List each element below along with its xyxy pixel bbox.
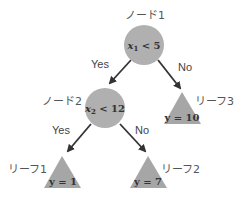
leaf-node-2: y = 7 リーフ2	[130, 156, 200, 188]
edge-node2-leaf1: Yes	[52, 124, 91, 151]
node-label: ノード2	[42, 95, 82, 108]
edge-node2-leaf2: No	[120, 124, 149, 151]
edge-label-yes: Yes	[52, 124, 70, 136]
edge-label-no: No	[178, 61, 192, 73]
edge-label-yes: Yes	[91, 58, 109, 70]
decision-tree-diagram: Yes No Yes No ノード1 x1 < 5 ノード2 x2 < 12 y…	[0, 0, 247, 200]
edge-node1-node2: Yes	[91, 58, 131, 83]
node-label: ノード1	[125, 9, 165, 22]
edge-label-no: No	[135, 124, 149, 136]
leaf-node-1: y = 1 リーフ1	[8, 156, 81, 188]
decision-node-2: ノード2 x2 < 12	[42, 88, 125, 128]
leaf-label: リーフ2	[161, 163, 200, 176]
leaf-label: リーフ1	[8, 163, 47, 176]
edge-node1-leaf3: No	[158, 60, 192, 88]
leaf-value: y = 7	[133, 176, 162, 187]
leaf-value: y = 10	[163, 112, 199, 123]
decision-node-1: ノード1 x1 < 5	[124, 9, 165, 65]
leaf-label: リーフ3	[195, 95, 234, 108]
leaf-node-3: y = 10 リーフ3	[163, 92, 234, 124]
leaf-value: y = 1	[48, 176, 77, 187]
